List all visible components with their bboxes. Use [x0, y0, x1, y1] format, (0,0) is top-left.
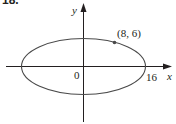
y-axis-arrow-icon — [81, 3, 87, 12]
ellipse-diagram: (8, 6) y x 0 16 — [0, 0, 176, 124]
x-axis — [6, 64, 172, 70]
x-axis-label: x — [166, 70, 172, 82]
y-axis — [81, 3, 87, 122]
x-intercept-label: 16 — [146, 71, 158, 83]
origin-label: 0 — [74, 69, 80, 81]
y-axis-label: y — [71, 4, 77, 16]
x-axis-arrow-icon — [163, 64, 172, 70]
point-marker — [113, 41, 117, 45]
point-label: (8, 6) — [117, 27, 141, 40]
